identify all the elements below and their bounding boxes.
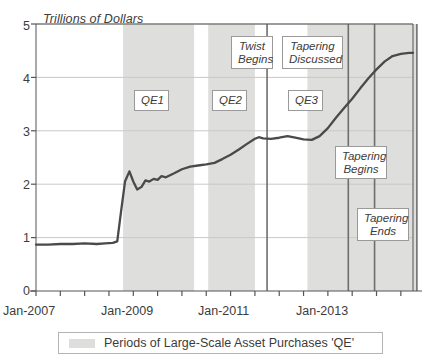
annotation-tapering-discussed: Tapering Discussed: [282, 36, 343, 69]
y-tick-label-5: 5: [8, 20, 30, 33]
band-label-qe2: QE2: [212, 90, 247, 111]
annotation-tapering-begins: Tapering Begins: [335, 146, 387, 179]
x-tick-label-jan-2009: Jan-2009: [101, 305, 153, 318]
x-tick-label-jan-2007: Jan-2007: [3, 305, 55, 318]
legend-label-qe-band: Periods of Large-Scale Asset Purchases '…: [104, 336, 354, 350]
y-tick-label-1: 1: [8, 232, 30, 245]
y-tick-label-4: 4: [8, 73, 30, 86]
shaded-band-qe1: [123, 24, 194, 291]
y-tick-label-3: 3: [8, 126, 30, 139]
band-label-qe3: QE3: [288, 90, 323, 111]
y-tick-label-0: 0: [8, 285, 30, 298]
x-tick-label-jan-2013: Jan-2013: [296, 305, 348, 318]
legend-swatch-qe-band: [69, 339, 95, 348]
annotation-twist-begins: Twist Begins: [231, 36, 273, 69]
y-tick-label-2: 2: [8, 179, 30, 192]
band-label-qe1: QE1: [134, 90, 169, 111]
annotation-tapering-ends: Tapering Ends: [357, 208, 409, 241]
chart-figure: Trillions of Dollars 5 4 3 2 1 0 Jan-200…: [0, 0, 442, 362]
x-tick-label-jan-2011: Jan-2011: [198, 305, 249, 318]
chart-legend: Periods of Large-Scale Asset Purchases '…: [58, 332, 383, 354]
